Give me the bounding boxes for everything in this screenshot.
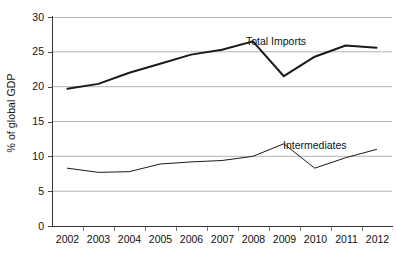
- series-annotation-intermediates: Intermediates: [283, 140, 347, 151]
- x-tick-mark-5: [238, 227, 239, 231]
- x-tick-label-2010: 2010: [299, 233, 333, 245]
- x-tick-label-2005: 2005: [144, 233, 178, 245]
- y-tick-label-30: 30: [18, 12, 44, 23]
- x-tick-label-2007: 2007: [206, 233, 240, 245]
- x-tick-label-2003: 2003: [82, 233, 116, 245]
- x-tick-mark-8: [331, 227, 332, 231]
- y-axis-line: [52, 16, 53, 227]
- y-tick-label-20: 20: [18, 81, 44, 92]
- x-tick-mark-9: [362, 227, 363, 231]
- x-tick-mark-0: [83, 227, 84, 231]
- x-tick-label-2004: 2004: [113, 233, 147, 245]
- x-tick-mark-4: [207, 227, 208, 231]
- y-tick-label-10: 10: [18, 151, 44, 162]
- x-tick-mark-2: [145, 227, 146, 231]
- series-annotation-total-imports: Total Imports: [246, 36, 306, 47]
- x-tick-label-2011: 2011: [330, 233, 364, 245]
- x-tick-label-2002: 2002: [51, 233, 85, 245]
- x-tick-mark-6: [269, 227, 270, 231]
- y-tick-label-5: 5: [18, 186, 44, 197]
- y-axis-title-text: % of global GDP: [5, 73, 17, 152]
- x-tick-mark-3: [176, 227, 177, 231]
- x-tick-mark-7: [300, 227, 301, 231]
- x-tick-mark-1: [114, 227, 115, 231]
- x-tick-label-2006: 2006: [175, 233, 209, 245]
- series-line-total-imports: [67, 41, 376, 88]
- plot-area: [52, 17, 392, 226]
- x-axis-line: [52, 226, 393, 227]
- line-chart: % of global GDP 30 25 20 15 10 5 0: [0, 0, 396, 260]
- x-tick-label-2012: 2012: [361, 233, 395, 245]
- y-tick-label-25: 25: [18, 46, 44, 57]
- plot-svg: [52, 17, 392, 226]
- x-tick-label-2009: 2009: [268, 233, 302, 245]
- y-tick-label-15: 15: [18, 116, 44, 127]
- x-tick-label-2008: 2008: [237, 233, 271, 245]
- y-tick-label-0: 0: [18, 221, 44, 232]
- gridlines: [52, 18, 392, 192]
